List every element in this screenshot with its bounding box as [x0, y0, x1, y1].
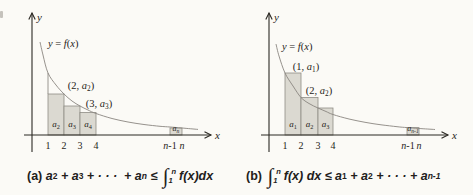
caption-segment: a: [421, 170, 428, 183]
tick-label: 3: [316, 140, 321, 151]
caption-segment: ≤: [147, 170, 161, 183]
tick-label: 4: [94, 140, 99, 151]
integral-limits: n1: [273, 167, 281, 186]
caption-segment: +: [57, 170, 71, 183]
caption-b: (b) ∫n1f(x) dx ≤ a1 + a2 + · · · + an-1: [246, 159, 440, 193]
caption-segment: (b): [246, 170, 265, 183]
curve-equation-label: y = f(x): [281, 41, 313, 53]
tick-label: 3: [78, 140, 83, 151]
graphs-svg: yxy = f(x)(2, a2)(3, a3)a2a3a4an1234n-1n…: [0, 0, 473, 158]
caption-a: (a) a2 + a3 + · · · + an ≤ ∫n1f(x)dx: [27, 159, 213, 193]
tick-label: 2: [299, 140, 304, 151]
caption-segment: a: [72, 170, 79, 183]
caption-segment: f(x) dx ≤: [284, 170, 335, 183]
integral-test-figure: yxy = f(x)(2, a2)(3, a3)a2a3a4an1234n-1n…: [0, 0, 473, 195]
tick-label: 1: [46, 140, 51, 151]
caption-segment: + · · · +: [83, 170, 134, 183]
tick-label: n: [180, 140, 185, 151]
caption-segment: ∫: [265, 166, 273, 187]
caption-segment: n-1: [428, 172, 441, 181]
y-axis-label: y: [273, 11, 279, 23]
point-label: (2, a2): [68, 80, 95, 93]
point-label: (2, a2): [306, 85, 333, 98]
tick-label: n: [417, 140, 422, 151]
x-axis-label: x: [451, 129, 457, 141]
tick-label: 1: [283, 140, 288, 151]
caption-segment: a: [135, 170, 142, 183]
caption-segment: a: [335, 170, 342, 183]
caption-segment: (a): [27, 170, 46, 183]
panel-b: yxy = f(x)(1, a1)(2, a2)a1a2a3an-11234n-…: [261, 11, 457, 152]
rect-label: an: [173, 124, 180, 134]
caption-segment: f(x)dx: [179, 170, 213, 183]
caption-segment: +: [347, 170, 361, 183]
y-axis-label: y: [36, 11, 42, 23]
caption-segment: a: [361, 170, 368, 183]
tick-label: n-1: [163, 140, 176, 151]
caption-segment: + · · · +: [373, 170, 421, 183]
curve-equation-label: y = f(x): [47, 38, 79, 50]
scan-artifact-mark: [0, 11, 3, 18]
tick-label: 4: [331, 140, 336, 151]
caption-segment: a: [46, 170, 53, 183]
point-label: (3, a3): [86, 98, 113, 111]
caption-segment: ∫: [161, 166, 169, 187]
tick-label: n-1: [401, 140, 414, 151]
rect-label: an-1: [407, 124, 419, 134]
panel-a: yxy = f(x)(2, a2)(3, a3)a2a3a4an1234n-1n: [24, 11, 220, 152]
tick-label: 2: [62, 140, 67, 151]
integral-limits: n1: [169, 167, 177, 186]
point-label: (1, a1): [293, 61, 320, 74]
x-axis-label: x: [214, 129, 220, 141]
